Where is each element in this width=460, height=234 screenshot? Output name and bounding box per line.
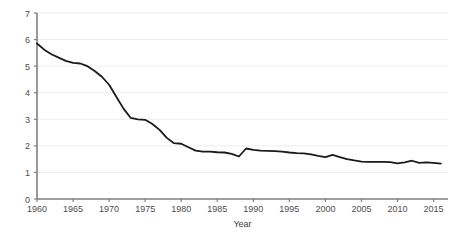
- y-tick-label: 1: [25, 168, 30, 178]
- x-tick-label: 1995: [279, 204, 299, 214]
- x-tick-label: 1970: [99, 204, 119, 214]
- x-tick-label: 1985: [207, 204, 227, 214]
- y-tick-label: 3: [25, 115, 30, 125]
- x-tick-label: 1975: [135, 204, 155, 214]
- y-tick-label: 7: [25, 9, 30, 19]
- x-tick-label: 2010: [388, 204, 408, 214]
- x-tick-label: 1990: [243, 204, 263, 214]
- x-tick-labels: 1960196519701975198019851990199520002005…: [27, 199, 444, 214]
- x-tick-label: 1980: [171, 204, 191, 214]
- y-tick-label: 5: [25, 62, 30, 72]
- x-axis-title: Year: [233, 219, 251, 229]
- x-tick-label: 1965: [63, 204, 83, 214]
- x-tick-label: 2000: [315, 204, 335, 214]
- chart-canvas: 01234567 1960196519701975198019851990199…: [0, 0, 460, 234]
- x-tick-label: 1960: [27, 204, 47, 214]
- y-tick-label: 6: [25, 35, 30, 45]
- gridlines: [37, 13, 448, 199]
- x-tick-label: 2015: [424, 204, 444, 214]
- y-tick-label: 4: [25, 88, 30, 98]
- y-tick-label: 2: [25, 141, 30, 151]
- x-tick-label: 2005: [351, 204, 371, 214]
- y-tick-label: 0: [25, 195, 30, 205]
- line-chart: 01234567 1960196519701975198019851990199…: [0, 0, 460, 234]
- y-tick-labels: 01234567: [25, 9, 37, 205]
